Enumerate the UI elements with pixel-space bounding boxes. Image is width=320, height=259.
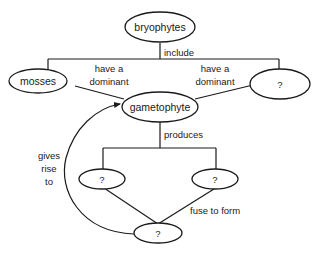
- connector-mosses-gametophyte: [75, 86, 124, 99]
- node-label-unknown-gamete-right: ?: [212, 174, 217, 185]
- edge-label-have-dominant-right-2: dominant: [195, 76, 234, 87]
- concept-map: bryophytes mosses ? gametophyte ? ? ? in…: [0, 0, 320, 259]
- connector-gamete-left-product: [104, 188, 158, 224]
- node-unknown-product: ?: [134, 223, 182, 243]
- node-unknown-gamete-left: ?: [79, 169, 125, 189]
- edge-label-gives-rise-to-2: rise: [41, 163, 56, 174]
- node-mosses: mosses: [9, 69, 67, 93]
- node-label-unknown-group: ?: [277, 79, 282, 90]
- edge-label-include: include: [164, 47, 194, 58]
- node-unknown-gamete-right: ?: [192, 169, 238, 189]
- node-label-bryophytes: bryophytes: [134, 21, 185, 33]
- edge-label-gives-rise-to-1: gives: [38, 150, 60, 161]
- node-unknown-group: ?: [250, 69, 310, 99]
- edge-label-have-dominant-left-1: have a: [95, 63, 124, 74]
- node-label-unknown-gamete-left: ?: [99, 174, 104, 185]
- node-gametophyte: gametophyte: [122, 92, 198, 122]
- edge-label-have-dominant-right-1: have a: [201, 63, 230, 74]
- node-label-unknown-product: ?: [155, 228, 160, 239]
- node-label-mosses: mosses: [20, 75, 56, 87]
- edge-label-have-dominant-left-2: dominant: [89, 76, 128, 87]
- node-bryophytes: bryophytes: [125, 12, 195, 42]
- connector-unknown-gametophyte: [195, 85, 253, 99]
- edge-label-gives-rise-to-3: to: [45, 176, 53, 187]
- edge-label-fuse-to-form: fuse to form: [190, 205, 240, 216]
- node-label-gametophyte: gametophyte: [130, 101, 191, 113]
- edge-label-produces: produces: [164, 129, 203, 140]
